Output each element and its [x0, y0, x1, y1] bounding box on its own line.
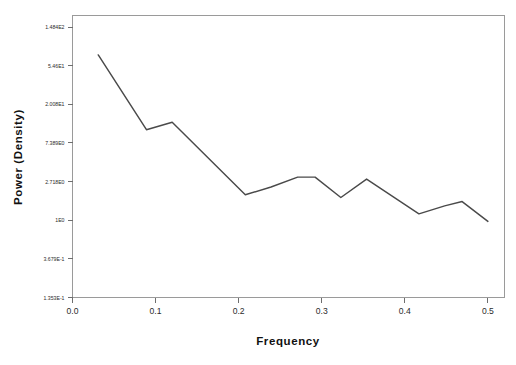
y-tick-label: 1.484E2 [45, 24, 64, 30]
x-tick-label: 0.2 [233, 306, 245, 316]
x-tick-label: 0.0 [67, 306, 79, 316]
x-tick-label: 0.5 [482, 306, 494, 316]
chart-canvas: 1.484E25.46E12.008E17.389E02.718E01E03.6… [0, 0, 516, 365]
spectral-density-chart: 1.484E25.46E12.008E17.389E02.718E01E03.6… [0, 0, 516, 365]
x-tick-label: 0.4 [399, 306, 411, 316]
y-tick-label: 1E0 [55, 217, 64, 223]
x-axis-title: Frequency [256, 335, 320, 347]
y-tick-label: 3.679E-1 [43, 256, 64, 262]
y-tick-label: 2.008E1 [45, 101, 64, 107]
y-tick-label: 1.353E-1 [43, 295, 64, 301]
x-tick-label: 0.3 [316, 306, 328, 316]
y-tick-label: 2.718E0 [45, 179, 64, 185]
y-axis-title: Power (Density) [12, 109, 24, 205]
x-tick-label: 0.1 [150, 306, 162, 316]
y-tick-label: 5.46E1 [48, 63, 65, 69]
y-tick-label: 7.389E0 [45, 140, 64, 146]
